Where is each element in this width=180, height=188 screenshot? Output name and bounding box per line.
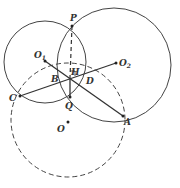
point-P <box>71 25 74 28</box>
label-C: C <box>9 93 17 103</box>
point-O <box>67 121 70 124</box>
label-B: B <box>50 74 59 84</box>
label-P: P <box>69 13 77 23</box>
point-Q <box>69 96 72 99</box>
label-A: A <box>123 117 131 127</box>
circle-O2 <box>57 8 171 122</box>
point-C <box>19 95 22 98</box>
diagram-canvas: PO1O2BHDCQAO <box>0 0 180 188</box>
label-H: H <box>70 67 80 77</box>
label-O2: O2 <box>119 58 131 69</box>
label-O: O <box>57 124 65 134</box>
label-D: D <box>85 76 94 86</box>
segment-C-O2 <box>20 63 116 96</box>
geometry-diagram: PO1O2BHDCQAO <box>0 0 180 188</box>
point-O2 <box>115 62 118 65</box>
segment-O1-A <box>45 61 123 116</box>
label-Q: Q <box>65 101 73 111</box>
label-O1: O1 <box>34 50 46 61</box>
